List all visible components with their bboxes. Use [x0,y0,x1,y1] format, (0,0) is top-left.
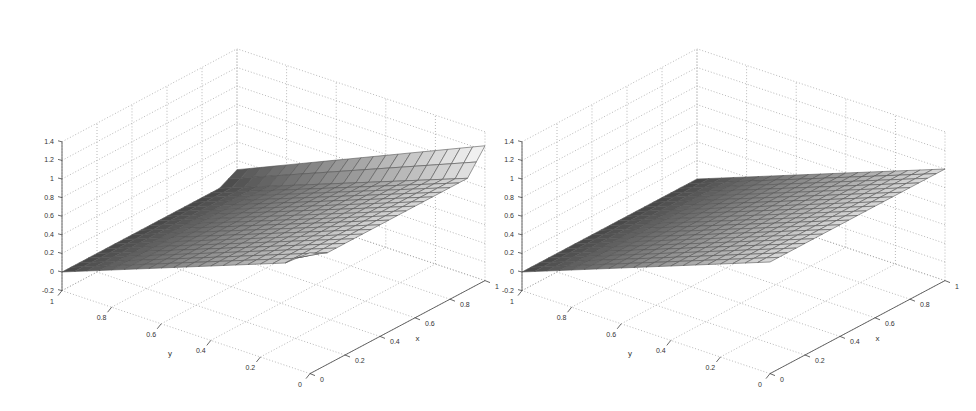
y-axis-label: y [628,349,632,358]
y-tick-label: 0.4 [196,347,206,354]
y-tick-label: 0.6 [606,331,616,338]
z-tick-label: 1.4 [44,138,54,145]
z-tick-label: 0 [510,268,514,275]
z-tick-label: 0.8 [44,194,54,201]
y-axis [58,291,310,379]
surface-mesh [62,146,485,272]
z-tick-label: 0.8 [504,194,514,201]
z-tick-label: 0.4 [504,231,514,238]
x-tick-label: 0.2 [815,357,825,364]
x-tick-label: 0.8 [920,301,930,308]
y-tick-label: 0 [758,381,762,388]
x-tick-label: 0.8 [460,301,470,308]
z-tick-label: 0.4 [44,231,54,238]
x-tick-label: 0.4 [390,338,400,345]
x-axis-label: x [876,334,880,343]
x-axis-label: x [416,334,420,343]
surface-plot-left: 1.41.210.80.60.40.20-0.210.80.60.40.20y0… [42,49,499,388]
z-tick-label: 0.6 [44,212,54,219]
y-axis-label: y [168,349,172,358]
z-tick-label: 0 [50,268,54,275]
z-tick-label: 1 [50,175,54,182]
y-tick-label: 0.2 [706,364,716,371]
z-tick-label: 1 [510,175,514,182]
z-tick-label: 0.6 [504,212,514,219]
x-axis [310,281,490,376]
z-tick-label: 0.2 [44,249,54,256]
z-tick-label: 1.2 [44,156,54,163]
x-tick-label: 0.4 [850,338,860,345]
y-tick-label: 0.4 [656,347,666,354]
y-tick-label: 0.8 [97,314,107,321]
x-tick-label: 0.6 [425,320,435,327]
y-axis [518,291,770,379]
y-tick-label: 1 [510,298,514,305]
surface-mesh [522,169,945,272]
z-tick-label: 0.2 [504,249,514,256]
z-tick-label: -0.2 [502,287,514,294]
x-tick-label: 1 [495,283,499,290]
x-tick-label: 0 [780,376,784,383]
z-tick-label: 1.2 [504,156,514,163]
x-tick-label: 1 [955,283,959,290]
y-tick-label: 0 [298,381,302,388]
x-axis [770,281,950,376]
z-tick-label: -0.2 [42,287,54,294]
z-axis [518,141,522,291]
y-tick-label: 1 [50,298,54,305]
y-tick-label: 0.6 [146,331,156,338]
x-tick-label: 0.2 [355,357,365,364]
z-tick-label: 1.4 [504,138,514,145]
y-tick-label: 0.8 [557,314,567,321]
x-tick-label: 0.6 [885,320,895,327]
surface-plot-right: 1.41.210.80.60.40.20-0.210.80.60.40.20y0… [502,49,959,388]
z-axis [58,141,62,291]
y-tick-label: 0.2 [246,364,256,371]
figure: 1.41.210.80.60.40.20-0.210.80.60.40.20y0… [0,0,976,411]
x-tick-label: 0 [320,376,324,383]
